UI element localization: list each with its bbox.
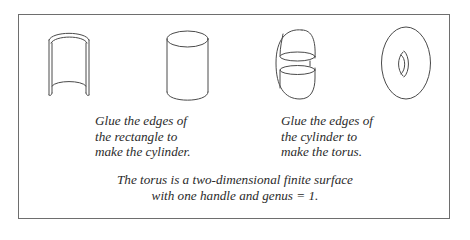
caption-line: with one handle and genus = 1. — [0, 188, 470, 204]
caption-cylinder-to-torus: Glue the edges of the cylinder to make t… — [281, 113, 373, 160]
caption-line: the rectangle to — [95, 129, 191, 145]
caption-line: make the torus. — [281, 144, 373, 160]
caption-rectangle-to-cylinder: Glue the edges of the rectangle to make … — [95, 113, 191, 160]
torus-icon — [382, 27, 431, 99]
caption-line: The torus is a two-dimensional finite su… — [0, 172, 470, 188]
cylinder-icon — [167, 31, 208, 100]
caption-torus-definition: The torus is a two-dimensional finite su… — [0, 172, 470, 203]
caption-line: Glue the edges of — [95, 113, 191, 129]
glued-cylinder-icon — [276, 30, 315, 99]
caption-line: make the cylinder. — [95, 144, 191, 160]
open-rectangle-icon — [49, 33, 89, 95]
caption-line: Glue the edges of — [281, 113, 373, 129]
caption-line: the cylinder to — [281, 129, 373, 145]
